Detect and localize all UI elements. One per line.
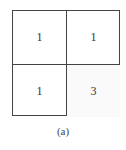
cell-top-left: 1 <box>13 11 66 63</box>
grid-2x2: 1 1 1 3 <box>12 10 120 116</box>
cell-top-right: 1 <box>67 11 120 63</box>
figure-caption: (a) <box>0 125 126 137</box>
cell-bottom-right: 3 <box>67 65 120 117</box>
cell-bottom-left: 1 <box>13 65 66 117</box>
